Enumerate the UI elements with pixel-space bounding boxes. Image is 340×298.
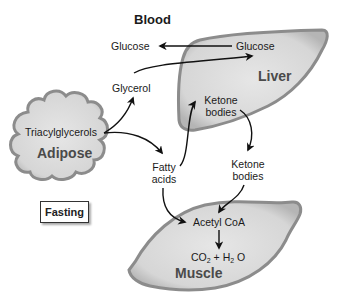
adipose-label: Adipose bbox=[37, 147, 92, 159]
liver-label: Liver bbox=[258, 70, 291, 82]
fasting-label: Fasting bbox=[45, 206, 84, 218]
liver-glucose-label: Glucose bbox=[236, 40, 275, 52]
fatty-acids-label-1: Fatty bbox=[148, 161, 180, 173]
glycerol-label: Glycerol bbox=[112, 82, 151, 94]
liver-ketone-label-2: bodies bbox=[201, 106, 241, 118]
co-text: CO bbox=[191, 251, 207, 263]
o-text: O bbox=[234, 251, 245, 263]
fatty-acids-label-2: acids bbox=[148, 173, 180, 185]
blood-glucose-label: Glucose bbox=[111, 40, 150, 52]
arrow-tag-to-fatty-acids bbox=[104, 132, 162, 153]
triacylglycerols-label: Triacylglycerols bbox=[25, 126, 97, 138]
blood-title: Blood bbox=[134, 14, 171, 26]
plus-text: + bbox=[211, 251, 223, 263]
muscle-label: Muscle bbox=[175, 267, 222, 279]
acetyl-coa-label: Acetyl CoA bbox=[193, 216, 245, 228]
blood-ketone-label-1: Ketone bbox=[227, 158, 269, 170]
fasting-state-box: Fasting bbox=[40, 201, 89, 223]
liver-ketone-label-1: Ketone bbox=[201, 94, 241, 106]
blood-ketone-label-2: bodies bbox=[227, 170, 269, 182]
